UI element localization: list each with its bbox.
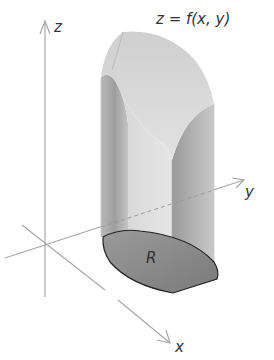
z-axis: [40, 21, 50, 297]
x-axis-label: x: [174, 338, 184, 356]
y-axis-label: y: [244, 183, 255, 201]
surface-equation-label: z = f(x, y): [155, 10, 230, 28]
z-axis-label: z: [53, 18, 63, 36]
region-label: R: [146, 249, 156, 267]
solid-under-surface-diagram: R z y x z = f(x, y): [0, 0, 274, 360]
